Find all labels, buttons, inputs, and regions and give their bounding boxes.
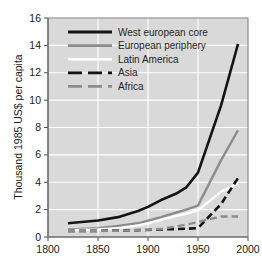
x-tick-label: 1800 (36, 243, 60, 255)
x-tick-label: 2000 (236, 243, 260, 255)
y-tick-label: 2 (35, 203, 41, 215)
y-tick-label: 8 (35, 121, 41, 133)
y-tick-label: 10 (29, 94, 41, 106)
legend-label: West european core (118, 27, 208, 38)
legend-label: Asia (118, 67, 138, 78)
y-tick-label: 0 (35, 231, 41, 243)
line-chart: 0246810121416 18001850190019502000 Thous… (0, 0, 262, 272)
legend-label: European periphery (118, 40, 206, 51)
y-axis-title: Thousand 1985 US$ per capita (12, 54, 24, 200)
x-tick-label: 1900 (136, 243, 160, 255)
legend-label: Latin America (118, 54, 179, 65)
legend-label: Africa (118, 81, 144, 92)
y-tick-label: 12 (29, 66, 41, 78)
x-tick-label: 1850 (86, 243, 110, 255)
y-tick-label: 16 (29, 12, 41, 24)
y-tick-label: 6 (35, 148, 41, 160)
chart-figure: 0246810121416 18001850190019502000 Thous… (0, 0, 262, 272)
x-tick-label: 1950 (186, 243, 210, 255)
y-tick-label: 14 (29, 39, 41, 51)
y-tick-label: 4 (35, 176, 41, 188)
